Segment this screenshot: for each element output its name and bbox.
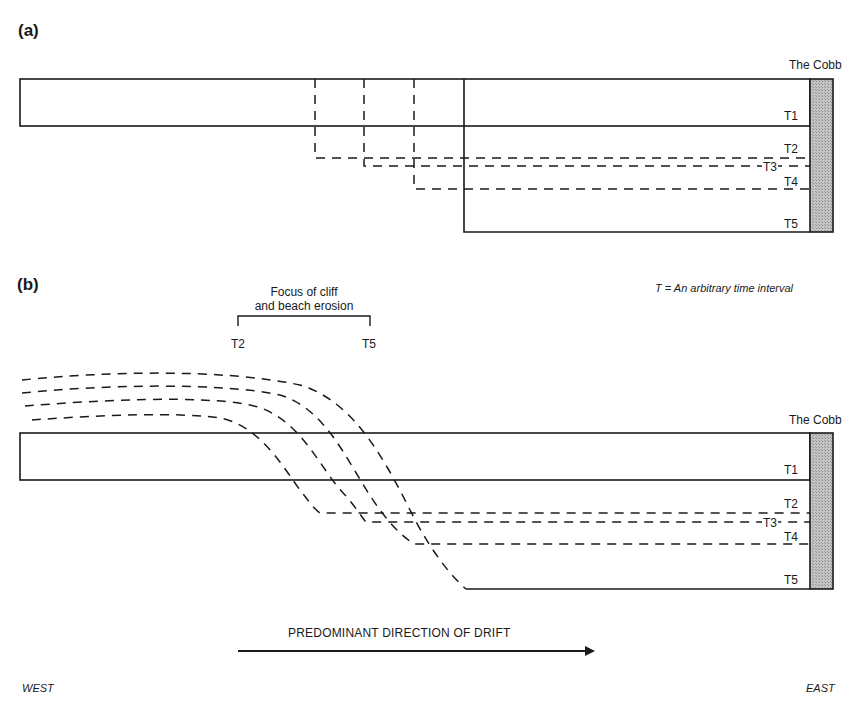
panel-b-t5-label: T5 (784, 573, 798, 587)
panel-b-cobb-label: The Cobb (789, 413, 842, 427)
panel-b-label: (b) (17, 275, 39, 295)
panel-b-diagram (20, 316, 833, 589)
panel-b-t3-shoreline (25, 399, 810, 522)
panel-a-t1-label: T1 (784, 109, 798, 123)
panel-a-t4-shoreline (414, 79, 810, 189)
panel-a-t5-shoreline (464, 79, 810, 232)
focus-annotation: Focus of cliff and beach erosion (234, 285, 374, 313)
panel-b-t5-curve (22, 373, 466, 589)
focus-line-1: Focus of cliff (234, 285, 374, 299)
panel-b-t2-label: T2 (784, 497, 798, 511)
panel-b-t4-label: T4 (784, 530, 798, 544)
west-label: WEST (22, 682, 54, 694)
focus-line-2: and beach erosion (234, 299, 374, 313)
panel-b-t1-shoreline (20, 433, 810, 480)
focus-bracket (238, 316, 370, 326)
panel-b-cobb (810, 433, 833, 589)
panel-a-t5-label: T5 (784, 217, 798, 231)
panel-a-t4-label: T4 (784, 175, 798, 189)
panel-a-cobb (810, 79, 833, 232)
panel-b-t2-shoreline (32, 415, 810, 513)
panel-a-t3-shoreline (364, 79, 810, 166)
east-label: EAST (806, 682, 835, 694)
panel-a-t2-shoreline (315, 79, 810, 158)
diagram-canvas (0, 0, 865, 712)
focus-left-label: T2 (231, 337, 245, 351)
panel-a-t3-label: T3 (762, 160, 778, 174)
drift-label: PREDOMINANT DIRECTION OF DRIFT (288, 626, 510, 640)
panel-a-t2-label: T2 (784, 142, 798, 156)
time-interval-note: T = An arbitrary time interval (655, 282, 793, 294)
panel-b-t4-shoreline (22, 386, 810, 544)
panel-a-label: (a) (18, 21, 39, 41)
panel-a-diagram (20, 79, 833, 232)
panel-b-t1-label: T1 (784, 463, 798, 477)
panel-a-cobb-label: The Cobb (789, 58, 842, 72)
focus-right-label: T5 (362, 337, 376, 351)
panel-b-t3-label: T3 (762, 516, 778, 530)
panel-a-t1-shoreline (20, 79, 810, 126)
